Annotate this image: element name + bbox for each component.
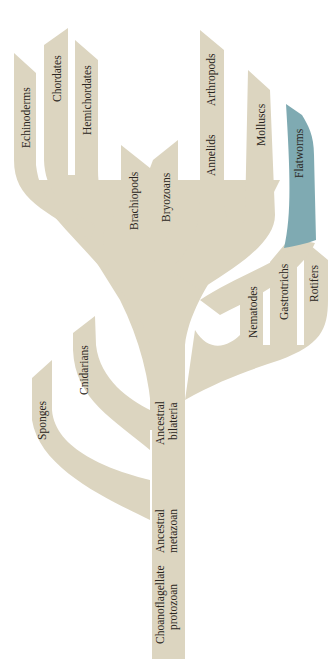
label-choanoflagellate: Choanoflagellate <box>154 565 167 644</box>
label-flatworms: Flatworms <box>293 128 305 178</box>
phylogenetic-tree-diagram: Choanoflagellate protozoan Ancestral met… <box>0 0 336 659</box>
tree-branches <box>14 28 328 659</box>
label-ancestral-bilateria-1: Ancestral <box>154 401 166 445</box>
label-ancestral-bilateria-2: bilateria <box>167 402 179 440</box>
label-molluscs: Molluscs <box>255 103 267 146</box>
label-ancestral-metazoan-2: metazoan <box>167 509 179 553</box>
label-nematodes: Nematodes <box>247 286 259 338</box>
label-sponges: Sponges <box>36 401 49 441</box>
label-cnidarians: Cnidarians <box>78 345 90 395</box>
label-chordates: Chordates <box>51 55 63 102</box>
label-bryozoans: Bryozoans <box>160 172 173 222</box>
label-gastrotrichs: Gastrotrichs <box>278 263 290 320</box>
label-brachiopods: Brachiopods <box>128 171 141 230</box>
label-echinoderms: Echinoderms <box>20 87 32 148</box>
label-rotifers: Rotifers <box>308 264 320 302</box>
label-hemichordates: Hemichordates <box>81 65 93 135</box>
label-annelids: Annelids <box>205 134 217 176</box>
label-protozoan: protozoan <box>167 584 180 630</box>
label-arthropods: Arthropods <box>205 53 218 106</box>
label-ancestral-metazoan-1: Ancestral <box>154 509 166 553</box>
